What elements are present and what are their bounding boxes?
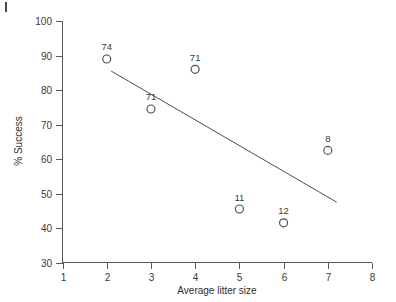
- data-point-71-1: [147, 105, 155, 113]
- x-tick-label-2: 2: [105, 272, 111, 283]
- data-point-labels: 74717111128: [101, 41, 330, 216]
- y-tick-label-30: 30: [41, 258, 53, 269]
- data-point-12-4: [280, 219, 288, 227]
- data-point-label-71-1: 71: [146, 91, 157, 102]
- x-tick-label-7: 7: [326, 272, 332, 283]
- data-point-8-5: [324, 146, 332, 154]
- x-tick-label-3: 3: [149, 272, 155, 283]
- y-tick-label-60: 60: [41, 154, 53, 165]
- x-tick-label-4: 4: [193, 272, 199, 283]
- x-axis-ticks: [64, 263, 373, 270]
- x-tick-label-8: 8: [370, 272, 376, 283]
- y-axis-ticks: [56, 22, 63, 264]
- data-point-74-0: [103, 55, 111, 63]
- scatter-plot-figure: 30405060708090100 12345678 74717111128 A…: [0, 0, 396, 302]
- x-tick-label-5: 5: [237, 272, 243, 283]
- x-axis-title: Average litter size: [177, 285, 257, 296]
- y-tick-label-100: 100: [35, 16, 52, 27]
- y-tick-label-40: 40: [41, 223, 53, 234]
- data-point-label-74-0: 74: [101, 41, 112, 52]
- x-tick-label-6: 6: [282, 272, 288, 283]
- data-point-label-11-3: 11: [234, 192, 244, 203]
- y-tick-label-70: 70: [41, 120, 53, 131]
- plot-canvas: 30405060708090100 12345678 74717111128 A…: [0, 0, 396, 302]
- data-point-11-3: [235, 205, 243, 213]
- data-point-label-12-4: 12: [278, 205, 289, 216]
- x-axis-tick-labels: 12345678: [61, 272, 376, 283]
- y-axis-title: % Success: [13, 116, 24, 165]
- data-point-label-71-2: 71: [190, 52, 201, 63]
- y-tick-label-80: 80: [41, 85, 53, 96]
- data-point-71-2: [191, 65, 199, 73]
- x-tick-label-1: 1: [61, 272, 67, 283]
- data-point-label-8-5: 8: [325, 133, 330, 144]
- y-tick-label-50: 50: [41, 189, 53, 200]
- y-tick-label-90: 90: [41, 51, 53, 62]
- y-axis-tick-labels: 30405060708090100: [35, 16, 52, 269]
- data-point-markers: [103, 55, 332, 227]
